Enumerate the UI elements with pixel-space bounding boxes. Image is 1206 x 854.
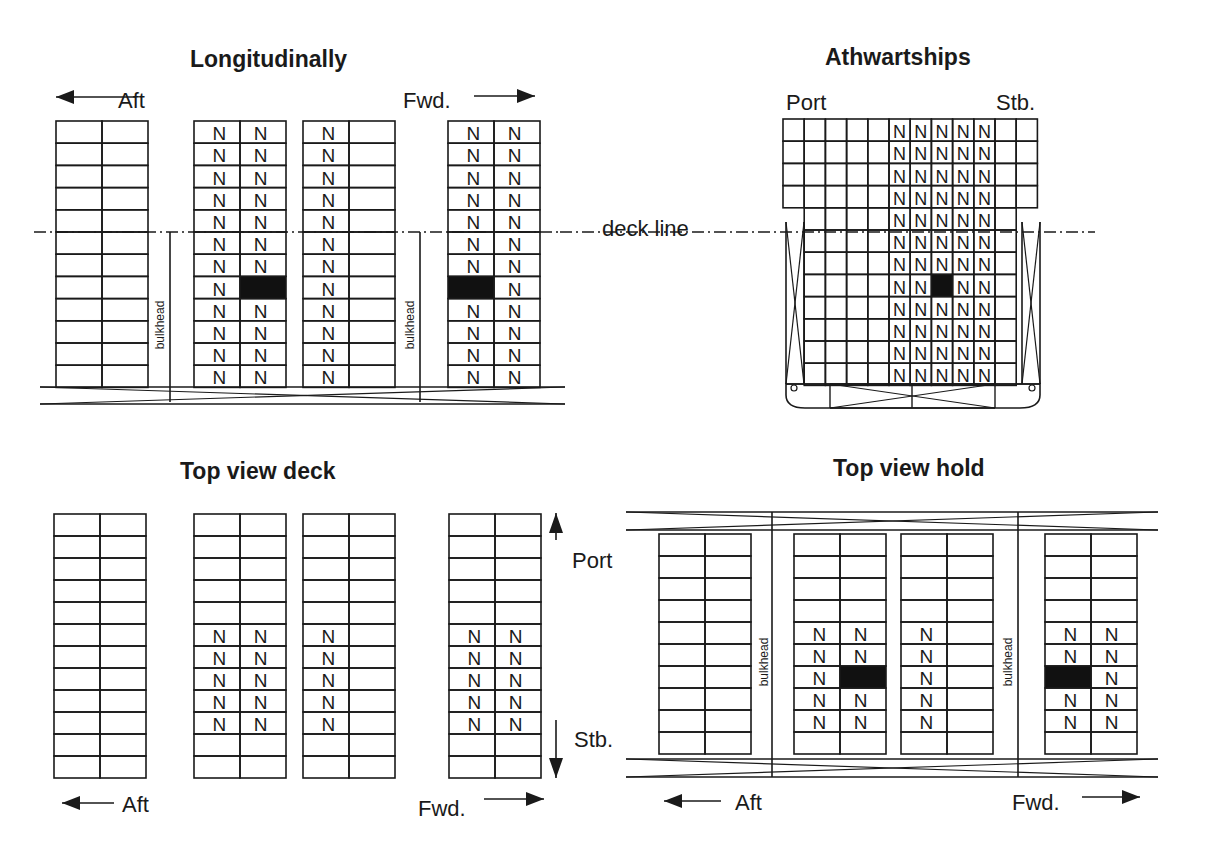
deck-stack-3-cell <box>349 712 395 734</box>
hold-stack-4-marker-n: N <box>1105 668 1119 689</box>
athwart-cell <box>847 230 868 252</box>
long-stack-3-marker-n: N <box>321 301 335 322</box>
hold-stack-3-cell <box>947 644 993 666</box>
long-stack-2-marker-n: N <box>212 256 226 277</box>
athwart-cell <box>825 297 846 319</box>
long-stack-3-cell <box>349 254 395 276</box>
aft-arrow-hold-head-icon <box>664 794 682 808</box>
athwart-cell <box>825 119 846 141</box>
long-stack-1-cell <box>102 232 148 254</box>
hold-stack-2-cell <box>794 732 840 754</box>
athwart-marker-n: N <box>978 144 991 164</box>
athwart-marker-n: N <box>957 122 970 142</box>
long-stack-2-marker-n: N <box>212 301 226 322</box>
deck-stack-1-cell <box>100 690 146 712</box>
hold-stack-4-cell <box>1045 534 1091 556</box>
athwart-marker-n: N <box>914 300 927 320</box>
athwart-marker-n: N <box>893 322 906 342</box>
hold-stack-1-cell <box>659 556 705 578</box>
deck-stack-4-cell <box>495 580 541 602</box>
athwart-cell <box>1016 119 1037 141</box>
long-stack-3-marker-n: N <box>321 145 335 166</box>
deck-stack-3-marker-n: N <box>321 626 335 647</box>
deck-stack-4-cell <box>495 734 541 756</box>
athwart-marker-n: N <box>936 344 949 364</box>
athwart-cell <box>868 274 889 296</box>
deck-stack-4-marker-n: N <box>509 648 523 669</box>
hold-stack-2-cell <box>840 556 886 578</box>
athwart-marker-n: N <box>914 189 927 209</box>
long-stack-4-marker-n: N <box>466 190 480 211</box>
hold-stack-3-marker-n: N <box>919 712 933 733</box>
athwart-cell <box>995 141 1016 163</box>
deck-stack-2-cell <box>240 558 286 580</box>
long-stack-3-cell <box>349 121 395 143</box>
long-stack-1-cell <box>102 188 148 210</box>
hold-stack-3-cell <box>947 556 993 578</box>
athwart-marker-n: N <box>893 344 906 364</box>
athwart-marker-n: N <box>914 211 927 231</box>
athwart-marker-n: N <box>978 189 991 209</box>
long-stack-1-cell <box>102 210 148 232</box>
athwart-cell <box>931 274 952 296</box>
long-stack-3-marker-n: N <box>321 323 335 344</box>
athwart-marker-n: N <box>957 144 970 164</box>
deck-stack-3-cell <box>303 558 349 580</box>
deck-stack-2-marker-n: N <box>212 648 226 669</box>
long-stack-1-cell <box>102 165 148 187</box>
hold-stack-4-marker-n: N <box>1105 646 1119 667</box>
long-stack-2-marker-n: N <box>212 367 226 388</box>
hold-stack-2-cell <box>840 578 886 600</box>
athwart-marker-n: N <box>978 122 991 142</box>
deck-stack-2-cell <box>194 734 240 756</box>
hold-stack-1-cell <box>705 732 751 754</box>
long-stack-1-cell <box>102 321 148 343</box>
athwart-cell <box>847 319 868 341</box>
deck-stack-3-cell <box>303 580 349 602</box>
athwart-marker-n: N <box>893 255 906 275</box>
deck-stack-3-marker-n: N <box>321 648 335 669</box>
hold-stack-1-cell <box>659 534 705 556</box>
deck-stack-3-marker-n: N <box>321 692 335 713</box>
deck-stack-4-cell <box>495 756 541 778</box>
hold-stack-4-marker-n: N <box>1105 624 1119 645</box>
deck-stack-1-cell <box>100 602 146 624</box>
long-stack-2-marker-n: N <box>212 168 226 189</box>
athwart-marker-n: N <box>893 189 906 209</box>
hold-stack-1-cell <box>705 710 751 732</box>
athwart-marker-n: N <box>936 144 949 164</box>
athwart-cell <box>783 186 804 208</box>
athwart-marker-n: N <box>978 255 991 275</box>
hold-stack-1-cell <box>659 644 705 666</box>
athwart-marker-n: N <box>978 233 991 253</box>
long-stack-3-marker-n: N <box>321 168 335 189</box>
long-stack-4-marker-n: N <box>466 256 480 277</box>
athwart-cell <box>995 119 1016 141</box>
long-stack-4-marker-n: N <box>466 345 480 366</box>
long-stack-1-cell <box>102 365 148 387</box>
athwart-cell <box>804 230 825 252</box>
athwart-cell <box>995 208 1016 230</box>
hold-stack-2-marker-n: N <box>812 624 826 645</box>
long-stack-3-cell <box>349 299 395 321</box>
athwart-marker-n: N <box>957 211 970 231</box>
athwart-cell <box>868 186 889 208</box>
athwart-marker-n: N <box>957 189 970 209</box>
deck-stack-3-marker-n: N <box>321 670 335 691</box>
athwart-cell <box>825 363 846 385</box>
deck-stack-2-cell <box>240 734 286 756</box>
athwart-cell <box>995 163 1016 185</box>
athwart-marker-n: N <box>893 233 906 253</box>
athwart-marker-n: N <box>936 211 949 231</box>
deck-stack-3-cell <box>349 602 395 624</box>
hold-stack-2-marker-n: N <box>812 668 826 689</box>
long-stack-1-cell <box>102 254 148 276</box>
long-stack-3-cell <box>349 165 395 187</box>
hold-stack-4-cell <box>1045 666 1091 688</box>
long-stack-3-cell <box>349 143 395 165</box>
aft-arrow-deck-head-icon <box>62 796 80 810</box>
hold-stack-2-cell <box>794 556 840 578</box>
long-stack-2-marker-n: N <box>254 234 268 255</box>
athwart-cell <box>868 141 889 163</box>
fwd-arrow-long-head-icon <box>517 89 535 103</box>
